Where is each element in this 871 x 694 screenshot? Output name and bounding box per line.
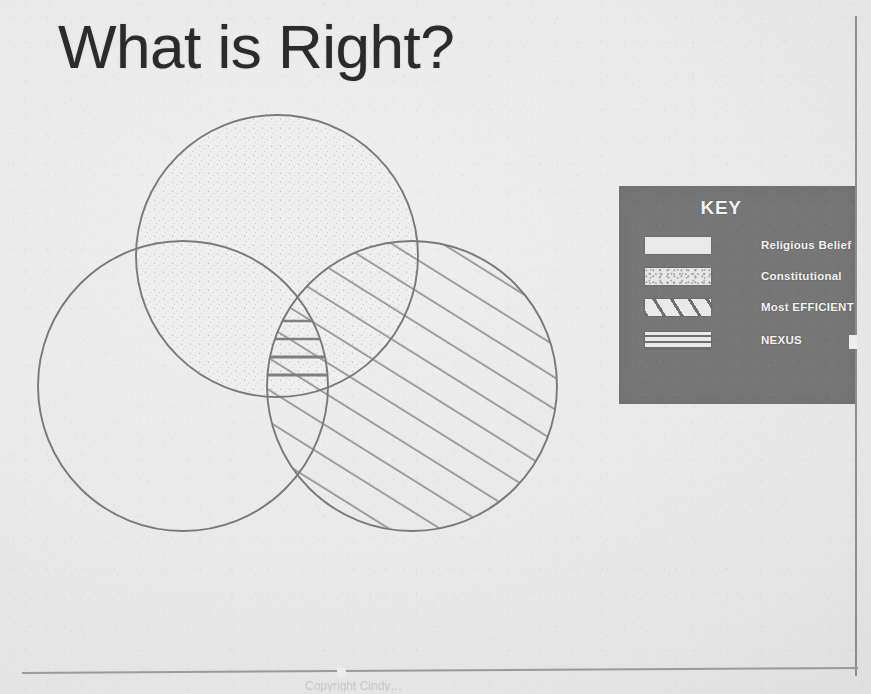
key-legend-item-constitutional[interactable]: Constitutional xyxy=(645,265,857,287)
swatch-speckle-icon xyxy=(645,268,711,285)
page-edge-notch-bottom xyxy=(337,668,346,677)
ghost-caption: Copyright Cindy… xyxy=(305,679,605,692)
swatch-horizontal-icon xyxy=(645,332,711,349)
swatch-plain-icon xyxy=(645,237,711,254)
key-legend-item-nexus[interactable]: NEXUS xyxy=(645,329,857,351)
key-legend-item-most-efficient[interactable]: Most EFFICIENT xyxy=(645,296,857,318)
swatch-diagonal-icon xyxy=(645,299,711,316)
key-legend-label: Most EFFICIENT xyxy=(761,301,854,313)
key-legend-label: Religious Belief xyxy=(761,239,851,251)
key-legend-title: KEY xyxy=(619,197,823,219)
key-legend-label: Constitutional xyxy=(761,270,842,282)
key-legend-item-religious-belief[interactable]: Religious Belief xyxy=(645,234,857,256)
slide-canvas: What is Right? xyxy=(0,0,871,694)
key-legend-label: NEXUS xyxy=(761,334,802,346)
page-edge-notch-right xyxy=(849,335,857,349)
key-legend-panel: KEY Religious Belief Constitutional Most… xyxy=(619,186,857,404)
